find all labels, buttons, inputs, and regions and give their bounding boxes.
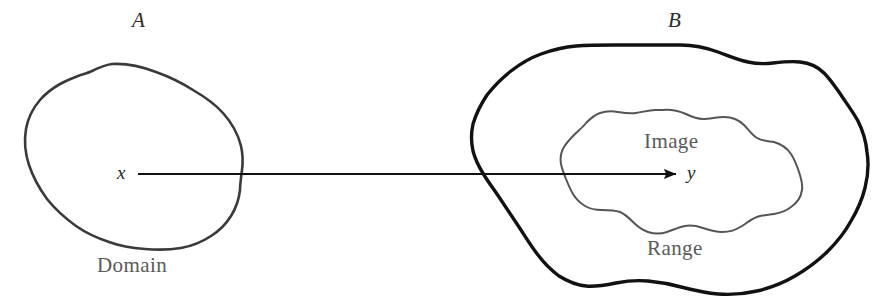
caption-range: Range bbox=[647, 238, 703, 259]
caption-domain: Domain bbox=[97, 255, 167, 276]
point-label-x: x bbox=[117, 163, 125, 182]
caption-image: Image bbox=[644, 131, 698, 152]
set-label-a: A bbox=[132, 10, 145, 31]
point-label-y: y bbox=[687, 163, 695, 182]
set-label-b: B bbox=[668, 10, 681, 31]
blob-outline-domain bbox=[25, 64, 243, 250]
function-diagram: A B x y Domain Image Range bbox=[0, 0, 888, 299]
